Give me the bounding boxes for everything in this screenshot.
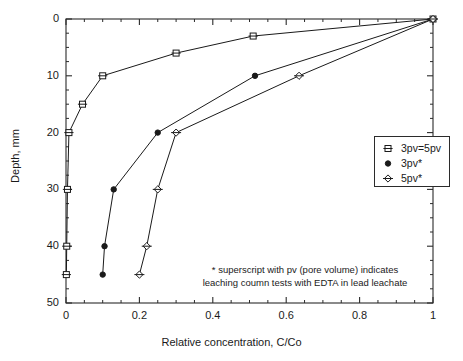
data-point-open-square [62, 243, 71, 249]
legend-item-2[interactable]: 5pv* [378, 171, 422, 186]
y-tick-label-1: 10 [19, 69, 59, 81]
data-point-open-square [78, 101, 87, 107]
legend-marker-open-square-icon [378, 142, 398, 155]
x-tick-label-4: 0.8 [340, 309, 380, 321]
y-tick-label-5: 50 [19, 296, 59, 308]
chart-figure: 01020304050 00.20.40.60.81 Depth, mm Rel… [0, 0, 463, 361]
y-tick-label-2: 20 [19, 126, 59, 138]
data-point-open-diamond [171, 129, 181, 136]
y-tick-label-0: 0 [19, 12, 59, 24]
data-point-open-diamond [134, 271, 144, 278]
data-point-open-diamond [142, 243, 152, 250]
data-point-open-diamond [383, 175, 393, 182]
legend-marker-filled-circle-icon [378, 157, 398, 170]
data-point-open-square [63, 186, 72, 192]
legend-label-2: 5pv* [401, 173, 422, 184]
data-point-filled-circle [252, 73, 257, 78]
x-tick-label-2: 0.4 [193, 309, 233, 321]
data-point-filled-circle [102, 244, 107, 249]
data-point-open-square [64, 130, 73, 136]
data-point-open-square [383, 146, 392, 152]
footnote-line-2: leaching coumn tests with EDTA in lead l… [155, 277, 455, 288]
data-point-filled-circle [385, 161, 390, 166]
data-point-open-square [172, 50, 181, 56]
x-tick-label-3: 0.6 [266, 309, 306, 321]
footnote-line-1: * superscript with pv (pore volume) indi… [155, 264, 455, 275]
legend-item-0[interactable]: 3pv=5pv [378, 141, 441, 156]
data-point-filled-circle [111, 187, 116, 192]
data-point-filled-circle [155, 130, 160, 135]
data-point-open-square [98, 73, 107, 79]
data-point-open-square [249, 33, 258, 39]
data-point-open-square [62, 272, 71, 278]
y-axis-title: Depth, mm [9, 113, 21, 199]
x-tick-label-0: 0 [46, 309, 86, 321]
legend-label-0: 3pv=5pv [401, 143, 441, 154]
chart-legend: 3pv=5pv3pv*5pv* [374, 136, 450, 187]
legend-marker-open-diamond-icon [378, 172, 398, 185]
x-tick-label-5: 1 [413, 309, 453, 321]
y-tick-label-3: 30 [19, 182, 59, 194]
x-axis-title: Relative concentration, C/Co [0, 336, 463, 348]
data-point-open-diamond [153, 186, 163, 193]
legend-label-1: 3pv* [401, 158, 422, 169]
x-tick-label-1: 0.2 [119, 309, 159, 321]
data-point-filled-circle [100, 272, 105, 277]
y-tick-label-4: 40 [19, 239, 59, 251]
data-point-open-diamond [294, 72, 304, 79]
legend-item-1[interactable]: 3pv* [378, 156, 422, 171]
